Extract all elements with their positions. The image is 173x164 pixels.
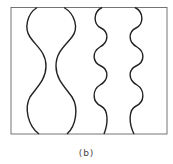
left-channel-left-wall <box>27 8 46 135</box>
right-channel-left-wall <box>94 8 107 135</box>
figure-caption: (b) <box>0 148 173 158</box>
right-channel-right-wall <box>130 8 143 135</box>
left-channel-right-wall <box>56 8 76 135</box>
figure-frame <box>11 8 167 135</box>
figure-diagram <box>0 0 173 164</box>
